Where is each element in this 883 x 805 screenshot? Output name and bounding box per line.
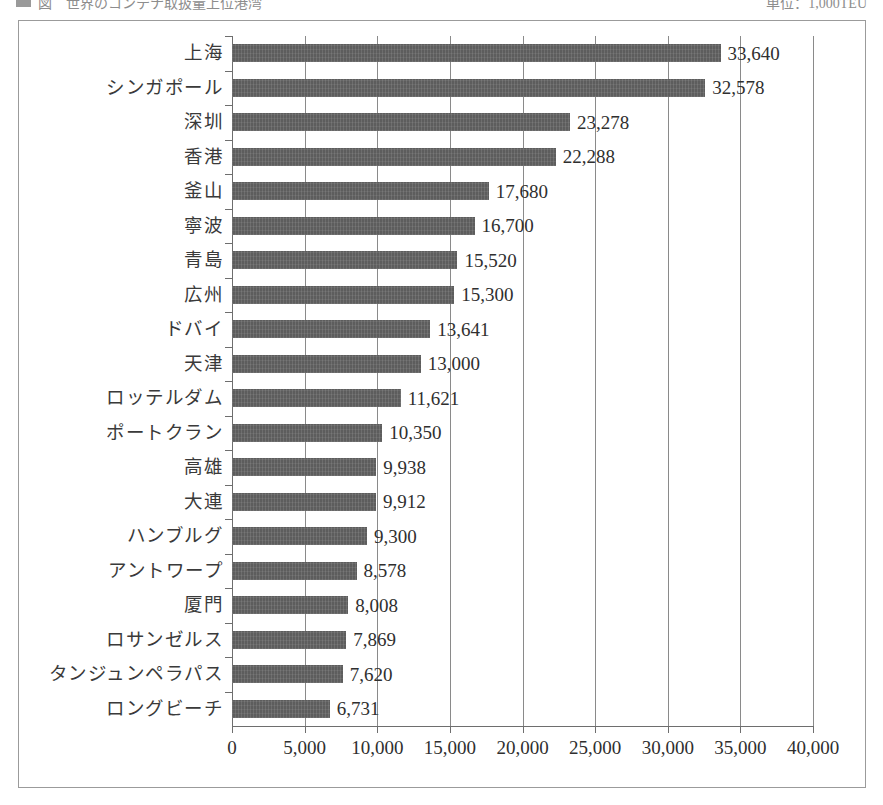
bar[interactable] [232, 631, 346, 649]
bar[interactable] [232, 562, 357, 580]
bar-row: ドバイ13,641 [232, 312, 813, 347]
bar[interactable] [232, 493, 376, 511]
x-tickmark-15000 [450, 726, 451, 733]
bar-row: タンジュンペラパス7,620 [232, 657, 813, 692]
bar-value-label: 13,000 [428, 354, 480, 373]
x-tick-label: 15,000 [424, 737, 476, 759]
x-tickmark-20000 [523, 726, 524, 733]
category-label: タンジュンペラパス [49, 665, 224, 684]
bar-value-label: 9,300 [374, 527, 417, 546]
legend-square-icon [16, 0, 31, 7]
bar-value-label: 32,578 [712, 78, 764, 97]
bar-value-label: 33,640 [728, 44, 780, 63]
category-label: 大連 [184, 493, 223, 512]
bar-row: 高雄9,938 [232, 450, 813, 485]
y-tickmark [225, 381, 232, 382]
y-tickmark [225, 692, 232, 693]
category-label: ドバイ [165, 320, 224, 339]
bar-value-label: 11,621 [408, 389, 460, 408]
y-tickmark [225, 71, 232, 72]
bar[interactable] [232, 286, 454, 304]
bar[interactable] [232, 424, 382, 442]
chart-frame: 上海33,640シンガポール32,578深圳23,278香港22,288釜山17… [18, 20, 866, 788]
bar[interactable] [232, 148, 556, 166]
bar-value-label: 7,620 [350, 665, 393, 684]
x-tickmark-35000 [740, 726, 741, 733]
category-label: ハンブルグ [127, 527, 224, 546]
bar-row: 厦門8,008 [232, 588, 813, 623]
gridline-40000 [813, 36, 814, 726]
category-label: ポートクラン [106, 424, 223, 443]
bar-value-label: 9,912 [383, 492, 426, 511]
bar-value-label: 22,288 [563, 147, 615, 166]
category-label: ロングビーチ [106, 700, 223, 719]
x-tickmark-30000 [668, 726, 669, 733]
bar-row: 深圳23,278 [232, 105, 813, 140]
y-tickmark [225, 450, 232, 451]
bar-value-label: 8,008 [355, 596, 398, 615]
y-tickmark [225, 209, 232, 210]
bar[interactable] [232, 700, 330, 718]
bar[interactable] [232, 458, 376, 476]
category-label: 釜山 [184, 182, 223, 201]
y-tickmark [225, 554, 232, 555]
category-label: 寧波 [184, 217, 223, 236]
bar-row: ロサンゼルス7,869 [232, 623, 813, 658]
bar[interactable] [232, 182, 489, 200]
bar[interactable] [232, 44, 721, 62]
category-label: 深圳 [184, 113, 223, 132]
y-tickmark [225, 36, 232, 37]
y-tickmark [225, 312, 232, 313]
bar-value-label: 17,680 [496, 182, 548, 201]
y-tickmark [225, 623, 232, 624]
category-label: 上海 [184, 44, 223, 63]
bar[interactable] [232, 79, 705, 97]
category-label: シンガポール [106, 79, 223, 98]
x-tickmark-0 [232, 726, 233, 733]
bar-value-label: 16,700 [482, 216, 534, 235]
figure-caption-strip: 図 世界のコンテナ取扱量上位港湾 単位：1,000TEU [0, 0, 883, 14]
bar-row: 上海33,640 [232, 36, 813, 71]
bar-row: 大連9,912 [232, 485, 813, 520]
category-label: 香港 [184, 148, 223, 167]
y-tickmark [225, 485, 232, 486]
bar[interactable] [232, 320, 430, 338]
bar-row: ハンブルグ9,300 [232, 519, 813, 554]
y-tickmark [225, 243, 232, 244]
x-tickmark-40000 [813, 726, 814, 733]
bar-row: アントワープ8,578 [232, 554, 813, 589]
category-label: 青島 [184, 251, 223, 270]
bar[interactable] [232, 389, 401, 407]
bar-value-label: 9,938 [383, 458, 426, 477]
y-tickmark [225, 174, 232, 175]
category-label: 厦門 [184, 596, 223, 615]
category-label: 天津 [184, 355, 223, 374]
y-tickmark [225, 140, 232, 141]
y-tickmark [225, 347, 232, 348]
bar-row: 釜山17,680 [232, 174, 813, 209]
y-tickmark [225, 657, 232, 658]
category-label: ロサンゼルス [106, 631, 223, 650]
figure-caption-text: 図 世界のコンテナ取扱量上位港湾 [38, 0, 262, 12]
bar-row: ロングビーチ6,731 [232, 692, 813, 727]
x-tick-label: 0 [227, 737, 237, 759]
bar-value-label: 10,350 [389, 423, 441, 442]
bar-row: 青島15,520 [232, 243, 813, 278]
bar-value-label: 23,278 [577, 113, 629, 132]
bar-value-label: 15,520 [464, 251, 516, 270]
x-tick-label: 10,000 [351, 737, 403, 759]
bar-value-label: 6,731 [337, 699, 380, 718]
bar[interactable] [232, 113, 570, 131]
y-tickmark [225, 278, 232, 279]
category-label: 高雄 [184, 458, 223, 477]
category-label: ロッテルダム [106, 389, 223, 408]
bar[interactable] [232, 251, 457, 269]
bar[interactable] [232, 596, 348, 614]
bar[interactable] [232, 665, 343, 683]
bar[interactable] [232, 217, 475, 235]
figure-unit-text: 単位：1,000TEU [766, 0, 867, 12]
bar[interactable] [232, 355, 421, 373]
bar-row: ポートクラン10,350 [232, 416, 813, 451]
bar[interactable] [232, 527, 367, 545]
x-tick-label: 25,000 [569, 737, 621, 759]
